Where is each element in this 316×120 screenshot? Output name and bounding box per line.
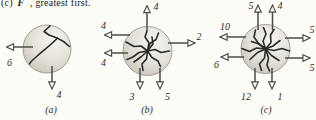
panel-label-c: (c) (260, 104, 272, 116)
panel-label-b: (b) (141, 104, 153, 116)
panel-b: 4 4 4 2 3 5 (b) (101, 1, 202, 116)
arrow-value: 5 (310, 24, 315, 35)
arrow-value: 3 (129, 91, 135, 102)
arrow-value: 5 (310, 62, 315, 73)
panel-c: 5 4 10 6 5 5 12 1 (c) (214, 0, 315, 116)
panel-label-a: (a) (45, 104, 57, 116)
cracked-sphere-a (23, 25, 71, 73)
arrow-value: 6 (214, 59, 219, 70)
figure-canvas: (c) →F , greatest first. 6 4 (0, 0, 316, 120)
arrow-value: 6 (7, 57, 12, 68)
panel-a: 6 4 (a) (7, 25, 71, 116)
arrow-value: 5 (165, 91, 170, 102)
arrow-value: 2 (197, 31, 202, 42)
arrow-value: 4 (278, 0, 283, 11)
arrow-value: 4 (101, 57, 106, 68)
cracked-spheres-figure: 6 4 (a) 4 4 4 2 3 (0, 0, 316, 120)
arrow-value: 10 (220, 21, 230, 32)
arrow-value: 1 (278, 91, 283, 102)
arrow-value: 5 (249, 0, 254, 11)
arrow-value: 4 (154, 1, 159, 12)
arrow-value: 12 (241, 91, 251, 102)
arrow-value: 4 (101, 20, 106, 31)
arrow-value: 4 (57, 89, 62, 100)
